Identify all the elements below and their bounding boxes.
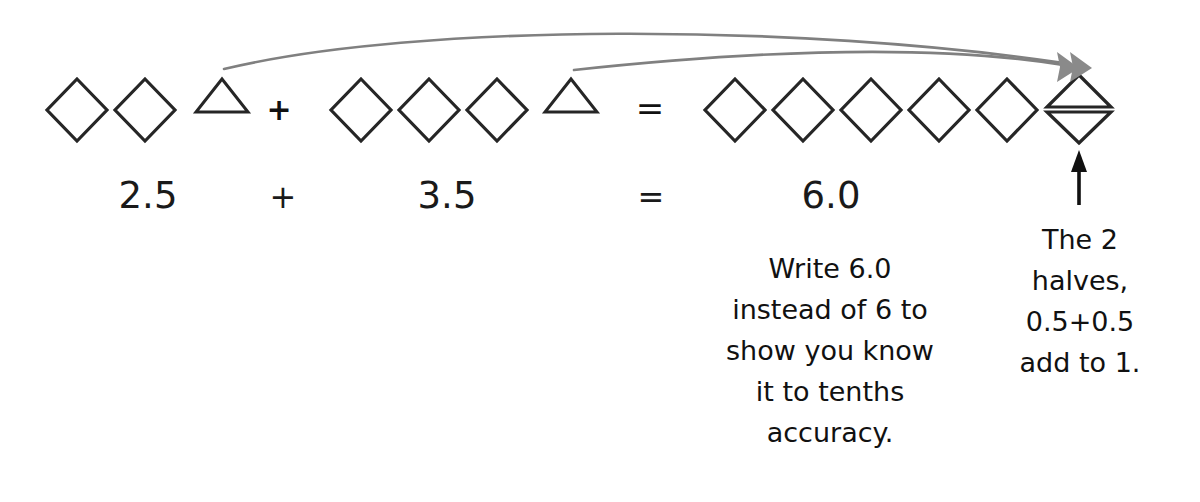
split-diamond-top-half — [1047, 75, 1111, 107]
whole-diamond — [977, 79, 1037, 141]
half-triangle — [196, 79, 248, 112]
whole-diamond — [467, 79, 527, 141]
plus-operator-numeric: + — [270, 181, 297, 213]
whole-diamond — [331, 79, 391, 141]
whole-diamond — [909, 79, 969, 141]
whole-diamond — [841, 79, 901, 141]
half-triangle — [545, 79, 597, 112]
half-to-sum-arrow-curve — [224, 34, 1064, 69]
plus-operator-shapes: + — [266, 95, 291, 125]
equals-operator-numeric: = — [638, 181, 665, 213]
right-explanation-note: The 2 halves, 0.5+0.5 add to 1. — [980, 219, 1180, 383]
diagram-canvas: + = 2.5 + 3.5 = 6.0 Write 6.0 instead of… — [0, 0, 1200, 502]
center-explanation-note: Write 6.0 instead of 6 to show you know … — [695, 248, 965, 453]
arrowhead — [1057, 52, 1079, 82]
whole-diamond — [705, 79, 765, 141]
arrowhead — [1070, 52, 1092, 82]
arrowhead-group — [1057, 52, 1092, 82]
equals-operator-shapes: = — [636, 91, 665, 125]
half-to-sum-arrow-curve — [574, 52, 1070, 70]
whole-diamond — [399, 79, 459, 141]
split-diamond-bottom-half — [1047, 112, 1111, 143]
whole-diamond — [47, 79, 107, 141]
sum-value: 6.0 — [802, 177, 861, 214]
addend-two-value: 3.5 — [418, 177, 477, 214]
whole-diamond — [115, 79, 175, 141]
upward-pointer-arrow — [1071, 150, 1087, 205]
whole-diamond — [773, 79, 833, 141]
addend-one-value: 2.5 — [119, 177, 178, 214]
